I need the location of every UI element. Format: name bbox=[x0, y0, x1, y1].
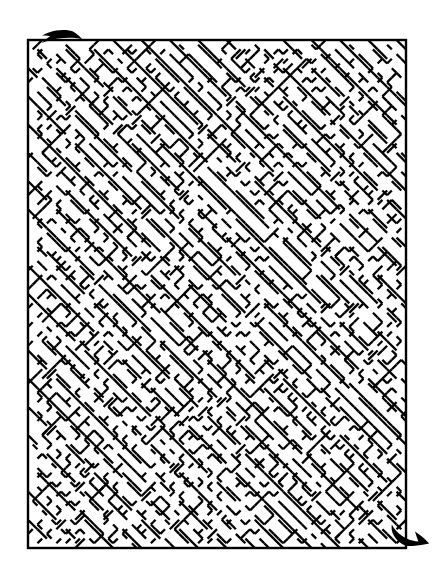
maze-figure: Diagonal lattice maze puzzle A rectangul… bbox=[0, 0, 443, 586]
maze-canvas bbox=[0, 0, 443, 586]
